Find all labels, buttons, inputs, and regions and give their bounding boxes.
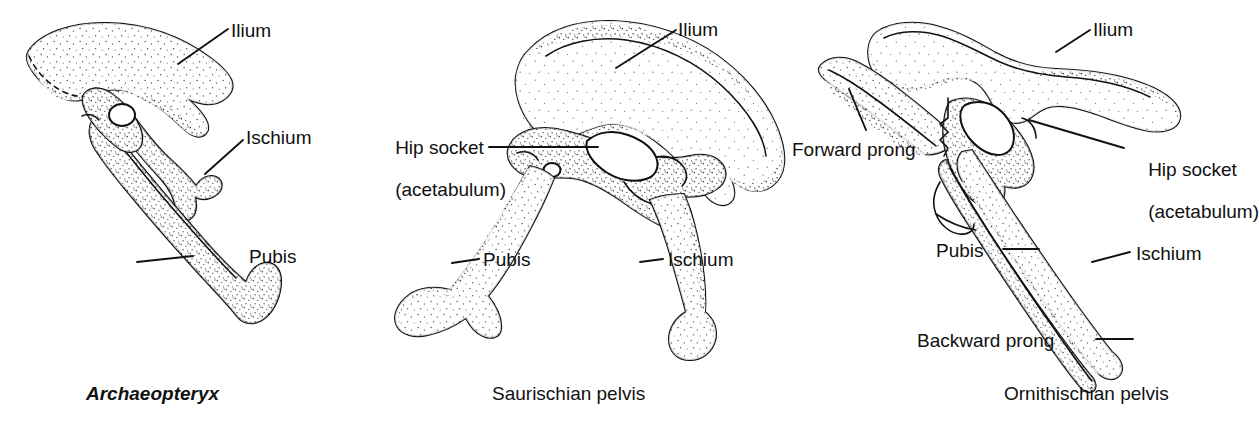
label-hip-socket-line1: Hip socket xyxy=(1148,159,1237,180)
label-forward-prong-ornithischian: Forward prong xyxy=(792,139,916,160)
label-ilium-ornithischian: Ilium xyxy=(1093,19,1133,40)
label-pubis-saurischian: Pubis xyxy=(483,249,531,270)
label-backward-prong-ornithischian: Backward prong xyxy=(917,330,1054,351)
label-hip-socket-line1: Hip socket xyxy=(395,137,484,158)
label-hip-socket-line2: (acetabulum) xyxy=(395,179,506,200)
label-hip-socket-ornithischian: Hip socket (acetabulum) xyxy=(1127,138,1259,243)
caption-archaeopteryx: Archaeopteryx xyxy=(86,383,219,405)
archaeopteryx-acetabulum xyxy=(109,104,135,126)
label-ischium-archaeopteryx: Ischium xyxy=(246,127,311,148)
label-ilium-saurischian: Ilium xyxy=(678,19,718,40)
caption-ornithischian: Ornithischian pelvis xyxy=(1004,383,1169,405)
caption-saurischian: Saurischian pelvis xyxy=(492,383,645,405)
label-ilium-archaeopteryx: Ilium xyxy=(231,20,271,41)
label-pubis-ornithischian: Pubis xyxy=(936,240,984,261)
label-hip-socket-saurischian: Hip socket (acetabulum) xyxy=(374,116,506,221)
label-ischium-ornithischian: Ischium xyxy=(1136,243,1201,264)
label-ischium-saurischian: Ischium xyxy=(668,249,733,270)
label-hip-socket-line2: (acetabulum) xyxy=(1148,201,1259,222)
label-pubis-archaeopteryx: Pubis xyxy=(249,246,297,267)
